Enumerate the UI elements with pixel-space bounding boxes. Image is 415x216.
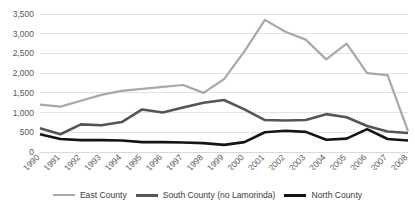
legend-item[interactable]: East County: [53, 190, 127, 200]
x-tick-label: 2000: [225, 152, 246, 170]
x-tick-label: 1996: [144, 152, 165, 170]
legend-label: East County: [80, 190, 127, 200]
x-tick-label: 2005: [328, 152, 349, 170]
legend-swatch: [284, 194, 306, 197]
series-line-east-county: [40, 20, 408, 131]
legend-label: North County: [311, 190, 362, 200]
plot-area: 05001,0001,5002,0002,5003,0003,500 19901…: [0, 0, 415, 160]
x-tick-label: 2001: [246, 152, 267, 170]
legend-swatch: [136, 194, 158, 197]
series-lines: [40, 20, 408, 145]
y-tick-label: 500: [20, 127, 34, 137]
x-axis-tick-labels: 1990199119921993199419951996199719981999…: [21, 152, 410, 170]
x-tick-label: 1992: [62, 152, 83, 170]
legend-label: South County (no Lamorinda): [163, 190, 276, 200]
series-line-north-county: [40, 129, 408, 145]
x-tick-label: 1994: [103, 152, 124, 170]
x-tick-label: 1991: [41, 152, 62, 170]
y-tick-label: 2,000: [13, 68, 35, 78]
y-tick-label: 3,500: [13, 9, 35, 19]
legend-item[interactable]: South County (no Lamorinda): [136, 190, 276, 200]
x-tick-label: 2003: [287, 152, 308, 170]
gridlines: [40, 14, 408, 152]
legend-item[interactable]: North County: [284, 190, 362, 200]
x-tick-label: 1999: [205, 152, 226, 170]
x-tick-label: 1990: [21, 152, 42, 170]
y-tick-label: 1,000: [13, 108, 35, 118]
x-tick-label: 1993: [82, 152, 103, 170]
chart-legend: East CountySouth County (no Lamorinda)No…: [0, 190, 415, 200]
x-tick-label: 2002: [266, 152, 287, 170]
y-axis-tick-labels: 05001,0001,5002,0002,5003,0003,500: [13, 9, 35, 157]
legend-swatch: [53, 194, 75, 196]
series-line-south-county-no-lamorinda: [40, 100, 408, 134]
y-tick-label: 2,500: [13, 48, 35, 58]
y-tick-label: 3,000: [13, 29, 35, 39]
x-tick-label: 1997: [164, 152, 185, 170]
x-tick-label: 2008: [389, 152, 410, 170]
x-tick-label: 2007: [369, 152, 390, 170]
x-tick-label: 2004: [307, 152, 328, 170]
line-chart: 05001,0001,5002,0002,5003,0003,500 19901…: [0, 0, 415, 216]
x-tick-label: 1995: [123, 152, 144, 170]
x-tick-label: 1998: [185, 152, 206, 170]
plot-svg: 05001,0001,5002,0002,5003,0003,500 19901…: [0, 0, 415, 170]
y-tick-label: 1,500: [13, 88, 35, 98]
x-tick-label: 2006: [348, 152, 369, 170]
